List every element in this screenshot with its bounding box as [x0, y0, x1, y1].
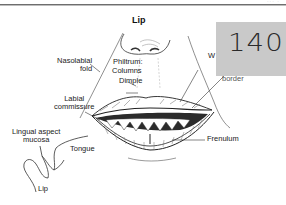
nose-drawing [121, 34, 170, 54]
label-columns: Columns [112, 67, 142, 75]
label-vermilion-partial: W [208, 52, 215, 60]
label-border: border [222, 75, 244, 83]
label-lingual-aspect-mucosa: Lingual aspect mucosa [12, 128, 60, 144]
label-lip-inset: Lip [38, 185, 48, 193]
label-labial-commissure-line2: commissure [54, 103, 94, 111]
sticky-note-text: 140 [228, 28, 284, 57]
diagram-title: Lip [132, 15, 146, 25]
mouth-interior [96, 113, 208, 131]
label-philtrum: Philtrum: [113, 58, 143, 66]
label-nasolabial-fold-line2: fold [52, 65, 92, 73]
label-nasolabial-fold: Nasolabial fold [52, 57, 92, 73]
label-labial-commissure: Labial commissure [54, 95, 94, 111]
label-dimple: Dimple [119, 77, 142, 85]
label-tongue: Tongue [70, 145, 95, 153]
label-frenulum: Frenulum [207, 135, 239, 143]
sticky-note: 140 [216, 22, 286, 76]
label-lingual-aspect-line2: mucosa [12, 136, 60, 144]
